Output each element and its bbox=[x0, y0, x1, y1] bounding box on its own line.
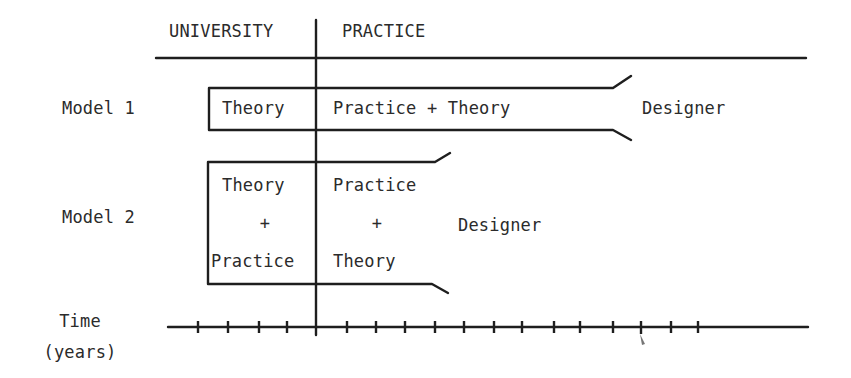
model-2-practice-line-1: Practice bbox=[333, 177, 416, 194]
model-2-label: Model 2 bbox=[62, 209, 135, 226]
model-2-top-flare bbox=[316, 153, 450, 162]
model-2-outcome: Designer bbox=[458, 217, 541, 234]
header-university-label: UNIVERSITY bbox=[169, 23, 273, 40]
model-2-practice-line-2: Theory bbox=[333, 253, 396, 270]
model-2-university-plus: + bbox=[260, 215, 270, 232]
career-model-diagram bbox=[0, 0, 851, 378]
pen-mark bbox=[640, 334, 645, 345]
model-1-top-flare bbox=[316, 76, 631, 88]
model-1-practice-phase: Practice + Theory bbox=[333, 100, 510, 117]
model-1-label: Model 1 bbox=[62, 100, 135, 117]
axis-label-years: (years) bbox=[43, 344, 116, 361]
model-2-university-line-2: Practice bbox=[211, 253, 294, 270]
axis-label-time: Time bbox=[59, 313, 101, 330]
time-axis bbox=[168, 321, 808, 345]
header-practice-label: PRACTICE bbox=[342, 23, 425, 40]
model-1-bottom-flare bbox=[316, 130, 631, 140]
model-1-university-phase: Theory bbox=[222, 100, 285, 117]
model-2-bottom-flare bbox=[316, 284, 448, 293]
model-2-practice-plus: + bbox=[372, 215, 382, 232]
model-1-outcome: Designer bbox=[642, 100, 725, 117]
model-2-university-line-1: Theory bbox=[222, 177, 285, 194]
model-2-bracket bbox=[208, 153, 450, 293]
